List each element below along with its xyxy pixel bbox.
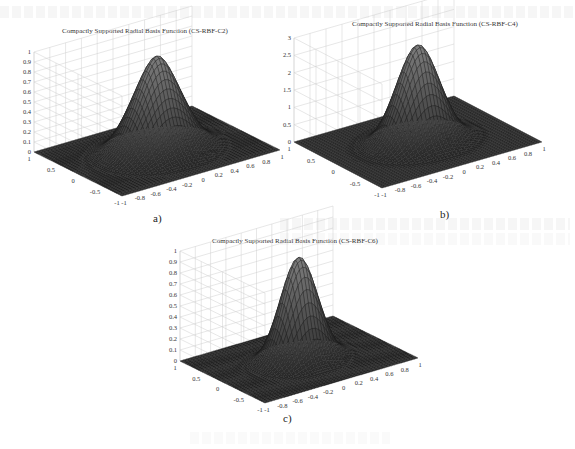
- x-tick-label: -0.8: [395, 186, 405, 193]
- x-tick-label: 0.2: [215, 171, 223, 178]
- y-tick-label: -0.5: [90, 188, 100, 195]
- y-tick-label: 0.5: [192, 375, 200, 382]
- y-tick-label: 0: [71, 177, 74, 184]
- x-tick-label: -1: [121, 199, 126, 206]
- figure-caption: c): [283, 412, 292, 424]
- z-axis-ticks: 00.10.20.30.40.50.60.70.80.91: [169, 247, 178, 364]
- x-tick-label: 1: [280, 153, 283, 160]
- z-tick-label: 2: [288, 69, 291, 76]
- z-tick-label: 0.7: [169, 280, 178, 287]
- y-tick-label: 0.5: [47, 166, 55, 173]
- x-tick-label: -0.4: [166, 185, 177, 192]
- z-tick-label: 0.6: [169, 291, 178, 298]
- x-tick-label: 0.8: [524, 150, 532, 157]
- z-tick-label: 1: [174, 247, 177, 254]
- y-tick-label: -0.5: [234, 396, 244, 403]
- y-tick-label: 1: [27, 155, 30, 162]
- z-tick-label: 0.4: [23, 108, 32, 115]
- x-tick-label: 0: [462, 168, 465, 175]
- z-tick-label: 0.5: [283, 121, 291, 128]
- x-tick-label: 0.4: [231, 167, 240, 174]
- z-axis-ticks: 00.10.20.30.40.50.60.70.80.91: [23, 48, 32, 155]
- z-tick-label: 0: [28, 148, 31, 155]
- z-tick-label: 0: [174, 357, 177, 364]
- z-tick-label: 0.9: [23, 58, 31, 65]
- chart-panel-a: Compactly Supported Radial Basis Functio…: [0, 0, 290, 240]
- x-tick-label: 0.2: [355, 379, 363, 386]
- z-tick-label: 0: [288, 138, 291, 145]
- y-tick-label: -1: [114, 199, 119, 206]
- x-tick-label: 1: [418, 361, 421, 368]
- surface-mesh: [34, 56, 280, 196]
- z-tick-label: 0.8: [23, 68, 31, 75]
- z-tick-label: 0.2: [23, 128, 31, 135]
- z-tick-label: 0.4: [169, 313, 178, 320]
- z-tick-label: 0.5: [23, 98, 31, 105]
- x-tick-label: 0.8: [401, 366, 409, 373]
- z-tick-label: 0.3: [23, 118, 31, 125]
- z-tick-label: 0.5: [169, 302, 177, 309]
- x-tick-label: -0.8: [277, 402, 287, 409]
- surface-plot: 00.511.522.53-1-0.8-0.6-0.4-0.200.20.40.…: [290, 0, 575, 240]
- x-tick-label: 0.6: [385, 370, 394, 377]
- z-tick-label: 2.5: [283, 51, 291, 58]
- z-tick-label: 0.1: [23, 138, 31, 145]
- y-tick-label: -0.5: [350, 180, 360, 187]
- x-tick-label: -0.2: [182, 181, 192, 188]
- figure-caption: b): [440, 208, 449, 220]
- z-tick-label: 0.8: [169, 269, 177, 276]
- z-tick-label: 0.6: [23, 88, 32, 95]
- surface-plot: 00.10.20.30.40.50.60.70.80.91-1-0.8-0.6-…: [0, 0, 290, 240]
- x-tick-label: 0: [342, 384, 345, 391]
- y-tick-label: 0: [216, 385, 219, 392]
- y-tick-label: -1: [374, 191, 379, 198]
- surface-mesh: [294, 45, 542, 188]
- z-tick-label: 0.1: [169, 346, 177, 353]
- x-tick-label: -0.8: [135, 194, 145, 201]
- x-tick-label: -0.6: [411, 182, 422, 189]
- x-tick-label: 0.2: [476, 163, 484, 170]
- x-tick-label: -0.6: [292, 397, 303, 404]
- x-tick-label: -0.4: [427, 177, 438, 184]
- z-tick-label: 0.7: [23, 78, 32, 85]
- figure-caption: a): [153, 212, 162, 224]
- z-tick-label: 1: [28, 48, 31, 55]
- z-tick-label: 3: [288, 34, 291, 41]
- y-tick-label: 1: [173, 364, 176, 371]
- x-tick-label: 1: [542, 145, 545, 152]
- x-tick-label: 0.4: [492, 159, 501, 166]
- chart-panel-c: Compactly Supported Radial Basis Functio…: [150, 230, 430, 449]
- z-tick-label: 0.3: [169, 324, 177, 331]
- x-tick-label: -1: [381, 191, 386, 198]
- z-tick-label: 0.9: [169, 258, 177, 265]
- x-tick-label: -0.4: [308, 393, 319, 400]
- x-tick-label: 0.6: [508, 154, 517, 161]
- x-tick-label: -0.2: [443, 173, 453, 180]
- z-tick-label: 1: [288, 103, 291, 110]
- chart-panel-b: Compactly Supported Radial Basis Functio…: [290, 0, 575, 240]
- y-tick-label: 1: [287, 145, 290, 152]
- surface-mesh: [180, 257, 418, 403]
- z-tick-label: 0.2: [169, 335, 177, 342]
- x-tick-label: -0.6: [150, 190, 161, 197]
- y-tick-label: -1: [257, 406, 262, 413]
- x-tick-label: 0.4: [370, 375, 379, 382]
- x-tick-label: 0: [201, 176, 204, 183]
- y-tick-label: 0: [331, 168, 334, 175]
- x-tick-label: -0.2: [323, 388, 333, 395]
- x-tick-label: 0.8: [262, 158, 270, 165]
- x-tick-label: 0.6: [246, 162, 255, 169]
- z-tick-label: 1.5: [283, 86, 291, 93]
- y-tick-label: 0.5: [307, 157, 315, 164]
- x-tick-label: -1: [264, 406, 269, 413]
